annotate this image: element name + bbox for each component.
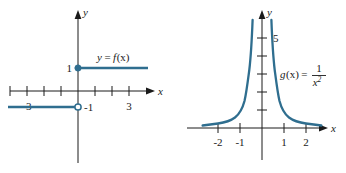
right-x-axis-label: x [330, 122, 336, 134]
fn-equals: = [301, 68, 307, 80]
left-x-axis [10, 88, 155, 95]
left-function-label: y=f(x) [96, 51, 130, 64]
right-graph-svg: y x -2 -1 1 2 [173, 0, 346, 173]
left-branch-curve [203, 20, 253, 126]
fn-equals: = [104, 51, 110, 63]
left-y-axis-label: y [82, 6, 88, 18]
left-graph-panel: y x -3 3 1 [0, 0, 173, 173]
left-label-neg-one: -1 [84, 101, 93, 113]
right-function-label: g(x)= 1 x2 [280, 62, 326, 88]
left-x-axis-label: x [157, 85, 163, 97]
right-tick-label-neg2: -2 [213, 136, 222, 148]
figure-container: y x -3 3 1 [0, 0, 346, 173]
fn-numerator: 1 [316, 62, 322, 74]
right-tick-label-pos1: 1 [281, 136, 287, 148]
fn-arg-x: (x) [286, 68, 299, 81]
fn-arg-x: (x) [117, 51, 130, 64]
left-y-axis [75, 10, 82, 163]
closed-endpoint-dot [75, 65, 81, 71]
left-label-one: 1 [67, 62, 73, 74]
right-tick-label-neg1: -1 [235, 136, 244, 148]
right-y-axis [259, 10, 266, 160]
right-y-axis-label: y [266, 6, 272, 18]
svg-text:g(x)=: g(x)= [280, 68, 308, 81]
left-graph-svg: y x -3 3 1 [0, 0, 173, 173]
fn-lhs-y: y [96, 51, 102, 63]
right-tick-label-pos2: 2 [303, 136, 309, 148]
svg-text:y=f(x): y=f(x) [96, 51, 130, 64]
open-endpoint-circle [75, 104, 81, 110]
fn-denominator-group: x2 [312, 75, 322, 88]
fn-exponent: 2 [318, 75, 322, 84]
right-graph-panel: y x -2 -1 1 2 [173, 0, 346, 173]
right-label-five: 5 [273, 32, 279, 44]
left-tick-label-pos3: 3 [126, 100, 132, 112]
